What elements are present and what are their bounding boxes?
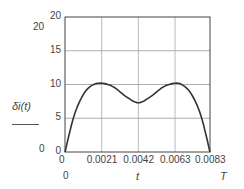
x-tick-label: 0.0021 (87, 154, 118, 165)
grid-lines (65, 17, 210, 152)
y-tick-label: 10 (50, 78, 61, 89)
y-axis-label: δi(t) (12, 100, 31, 112)
x-axis-extra-right-label: T (220, 170, 227, 182)
y-tick-label: 20 (50, 10, 61, 21)
x-tick-label: 0.0083 (195, 154, 226, 165)
x-axis-extra-left-label: 0 (63, 170, 69, 181)
data-curve (65, 83, 210, 152)
y-tick-label: 5 (55, 111, 61, 122)
y-axis-extra-bottom-label: 0 (39, 143, 45, 154)
x-axis-label: t (136, 170, 139, 182)
x-tick-label: 0 (59, 154, 65, 165)
y-axis-extra-top-label: 20 (33, 21, 44, 32)
x-tick-label: 0.0042 (123, 154, 154, 165)
y-tick-label: 15 (50, 44, 61, 55)
x-tick-label: 0.0063 (160, 154, 191, 165)
y-axis-label-underline (12, 124, 39, 125)
